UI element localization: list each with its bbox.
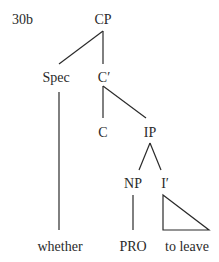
tree-branches — [0, 0, 219, 262]
edge-ip-np — [139, 143, 150, 170]
edge-ip-ibar — [150, 143, 161, 170]
syntax-tree-diagram: 30b CP Spec C′ C IP NP I′ whether PRO to… — [0, 0, 219, 262]
node-c: C — [98, 126, 107, 140]
node-np: NP — [124, 177, 142, 191]
node-c-bar: C′ — [98, 71, 110, 85]
node-ip: IP — [144, 126, 156, 140]
edge-cp-spec — [59, 31, 103, 64]
triangle-ibar — [163, 195, 209, 230]
terminal-to-leave: to leave — [165, 240, 209, 254]
node-spec: Spec — [42, 71, 69, 85]
terminal-whether: whether — [37, 240, 82, 254]
node-i-bar: I′ — [161, 177, 169, 191]
edge-cbar-ip — [103, 86, 146, 118]
node-cp: CP — [94, 13, 111, 27]
terminal-pro: PRO — [119, 240, 146, 254]
example-number: 30b — [12, 13, 33, 27]
